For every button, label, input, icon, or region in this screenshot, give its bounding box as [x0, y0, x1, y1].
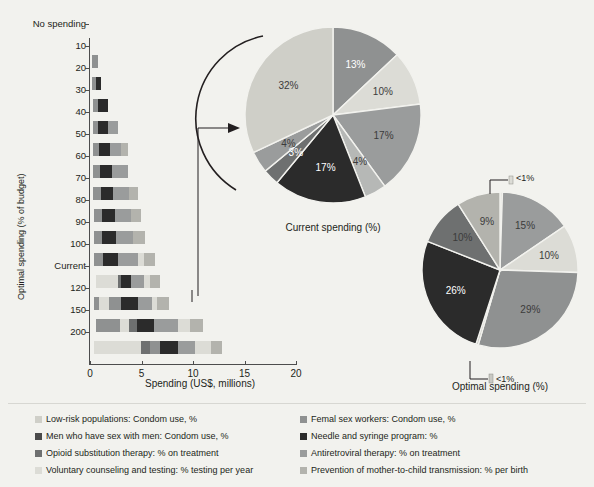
- bar-segment: [157, 297, 168, 310]
- bar-row: [0, 143, 206, 156]
- pie-slice-label: 13%: [343, 59, 367, 70]
- legend-item-label: Antiretroviral therapy: % on treatment: [311, 448, 460, 458]
- bar-segment: [190, 319, 203, 332]
- x-tick-label: 0: [75, 368, 105, 379]
- bar-segment: [99, 297, 109, 310]
- legend-swatch: [300, 450, 307, 457]
- bar-segment: [93, 187, 101, 200]
- x-tick-label: 20: [281, 368, 311, 379]
- legend-item-label: Needle and syringe program: %: [311, 431, 438, 441]
- pie-slice-label: 17%: [314, 162, 338, 173]
- legend-item-label: Prevention of mother-to-child transmissi…: [311, 465, 528, 475]
- bar-segment: [121, 143, 128, 156]
- bar-segment: [150, 341, 160, 354]
- optimal-pie-top-callout-label: <1%: [516, 173, 534, 183]
- bar-segment: [94, 231, 103, 244]
- bar-segment: [108, 121, 118, 134]
- legend-divider: [8, 403, 586, 404]
- bar-segment: [94, 209, 102, 222]
- bar-segment: [101, 187, 113, 200]
- bar-segment: [118, 253, 138, 266]
- legend-item-label: Opioid substitution therapy: % on treatm…: [46, 448, 219, 458]
- bar-segment: [102, 209, 115, 222]
- bar-row: [0, 187, 206, 200]
- bar-segment: [100, 165, 111, 178]
- bar-segment: [133, 231, 145, 244]
- bar-segment: [94, 253, 103, 266]
- bar-row: [0, 209, 206, 222]
- bar-segment: [121, 297, 138, 310]
- bar-segment: [113, 187, 129, 200]
- legend-swatch: [300, 433, 307, 440]
- bar-row: [0, 275, 206, 288]
- bar-segment: [131, 275, 144, 288]
- bar-segment: [137, 319, 155, 332]
- pie-slice-label: 10%: [450, 232, 474, 243]
- bar-segment: [94, 341, 141, 354]
- pie-slice-label: 4%: [348, 156, 372, 167]
- bar-segment: [116, 231, 132, 244]
- legend-swatch: [300, 416, 307, 423]
- bar-row: [0, 77, 206, 90]
- chart-figure: Optimal spending (% of budget) No spendi…: [0, 0, 594, 487]
- bar-row: [0, 99, 206, 112]
- x-axis-line: [89, 364, 297, 365]
- bar-segment: [115, 209, 131, 222]
- legend: Low-risk populations: Condom use, %Men w…: [0, 403, 594, 487]
- current-spending-callout: [180, 28, 300, 308]
- legend-swatch: [300, 467, 307, 474]
- bar-segment: [93, 165, 100, 178]
- bar-row: [0, 297, 206, 310]
- bar-row: [0, 231, 206, 244]
- bar-segment: [178, 319, 191, 332]
- pie-slice-label: 17%: [372, 130, 396, 141]
- bar-row: [0, 165, 206, 178]
- bar-row: [0, 253, 206, 266]
- bar-segment: [144, 253, 155, 266]
- legend-item-label: Voluntary counseling and testing: % test…: [46, 465, 253, 475]
- legend-swatch: [35, 416, 42, 423]
- bar-segment: [150, 275, 160, 288]
- bar-segment: [160, 341, 179, 354]
- bar-row: [0, 55, 206, 68]
- bar-segment: [129, 319, 137, 332]
- pie-slice-label: 26%: [444, 285, 468, 296]
- bar-segment: [103, 253, 118, 266]
- optimal-spending-pie: [420, 190, 580, 350]
- optimal-pie-bottom-callout-label: <1%: [496, 374, 514, 384]
- legend-item-label: Low-risk populations: Condom use, %: [46, 414, 197, 424]
- pie-slice-label: 10%: [371, 86, 395, 97]
- bar-segment: [96, 77, 101, 90]
- bar-segment: [99, 143, 110, 156]
- bar-row: [0, 319, 206, 332]
- bar-segment: [131, 209, 142, 222]
- bar-segment: [98, 121, 108, 134]
- bar-segment: [102, 231, 116, 244]
- bar-segment: [211, 341, 222, 354]
- x-axis-title: Spending (US$, millions): [120, 378, 280, 389]
- bar-segment: [121, 275, 131, 288]
- pie-slice-label: 9%: [475, 216, 499, 227]
- bar-segment: [178, 341, 195, 354]
- bar-row: [0, 341, 206, 354]
- pie-slice-label: 10%: [537, 250, 561, 261]
- bar-segment: [109, 297, 121, 310]
- bar-segment: [120, 319, 129, 332]
- bar-segment: [110, 143, 120, 156]
- bar-row: [0, 33, 206, 46]
- bar-segment: [141, 341, 150, 354]
- bar-segment: [138, 297, 152, 310]
- legend-item-label: Femal sex workers: Condom use, %: [311, 414, 456, 424]
- legend-item-label: Men who have sex with men: Condom use, %: [46, 431, 229, 441]
- bar-segment: [112, 165, 128, 178]
- bar-row: [0, 121, 206, 134]
- bar-segment: [92, 55, 98, 68]
- bar-segment: [98, 99, 108, 112]
- legend-swatch: [35, 467, 42, 474]
- bar-segment: [154, 319, 177, 332]
- legend-swatch: [35, 450, 42, 457]
- y-tick-label: No spending: [20, 19, 86, 29]
- bar-segment: [195, 341, 211, 354]
- bar-segment: [96, 275, 118, 288]
- y-tick-mark: [85, 24, 89, 25]
